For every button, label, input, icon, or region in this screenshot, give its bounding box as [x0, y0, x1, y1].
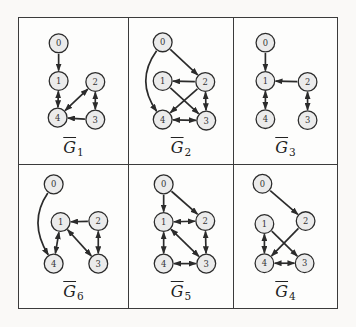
graph-label-g4: G4: [234, 284, 337, 302]
graph-cell-g3: 01243G3: [234, 18, 337, 165]
graph-drawing-g1: 01243: [19, 18, 128, 136]
node-number: 1: [161, 217, 166, 227]
node-number: 1: [262, 219, 267, 229]
graph-edge-1-3: [68, 230, 92, 256]
node-number: 4: [55, 113, 60, 123]
graph-edge-1-4: [55, 232, 59, 253]
node-number: 2: [93, 77, 98, 87]
screenshot-root: { "figure": { "type": "graph-grid", "des…: [0, 0, 356, 327]
node-number: 2: [203, 216, 208, 226]
graph-drawing-g3: 01243: [234, 18, 337, 136]
graph-edge-0-2: [170, 49, 197, 74]
graph-label-letter: G: [275, 282, 288, 301]
graph-edge-2-4: [272, 228, 299, 255]
node-number: 0: [263, 38, 268, 48]
graph-label-subscript: 6: [77, 290, 84, 302]
graph-edge-4-2: [65, 89, 88, 110]
graph-edge-0-4: [38, 193, 48, 255]
graph-edge-0-2: [270, 191, 298, 215]
node-number: 2: [96, 216, 101, 226]
graph-label-letter: G: [63, 138, 76, 157]
node-number: 0: [161, 179, 166, 189]
graph-label-subscript: 1: [77, 146, 84, 158]
graph-label-subscript: 5: [185, 290, 192, 302]
graph-cell-g2: 01243G2: [129, 18, 234, 165]
graph-edge-2-3: [206, 231, 207, 253]
node-number: 2: [303, 216, 308, 226]
node-number: 4: [161, 259, 166, 269]
graph-edge-3-4: [68, 118, 85, 119]
node-number: 1: [56, 76, 61, 86]
node-number: 1: [263, 76, 268, 86]
figure-frame: 01243G101243G201243G301243G601243G501243…: [18, 17, 338, 309]
graph-label-letter: G: [171, 138, 184, 157]
graph-label-subscript: 2: [185, 146, 192, 158]
node-number: 1: [160, 76, 165, 86]
node-number: 3: [302, 258, 307, 268]
node-number: 4: [263, 114, 268, 124]
graph-label-g5: G5: [129, 284, 233, 302]
node-number: 3: [204, 116, 209, 126]
graph-label-letter: G: [171, 282, 184, 301]
graph-edge-1-3: [171, 229, 199, 256]
node-number: 4: [160, 115, 165, 125]
graph-label-g1: G1: [19, 140, 128, 158]
graph-label-g2: G2: [129, 140, 233, 158]
graph-label-letter: G: [63, 282, 76, 301]
node-number: 3: [305, 115, 310, 125]
node-number: 2: [203, 77, 208, 87]
graph-edge-2-1: [173, 81, 195, 82]
node-number: 3: [204, 259, 209, 269]
node-number: 4: [262, 258, 267, 268]
node-number: 2: [305, 77, 310, 87]
node-number: 0: [160, 37, 165, 47]
node-number: 0: [260, 179, 265, 189]
graph-label-subscript: 4: [289, 290, 296, 302]
graph-label-g6: G6: [19, 284, 128, 302]
graph-label-g3: G3: [234, 140, 337, 158]
graph-label-letter: G: [275, 138, 288, 157]
graph-cell-g4: 01243G4: [234, 165, 337, 308]
graph-drawing-g2: 01243: [129, 18, 233, 136]
graph-cell-g6: 01243G6: [19, 165, 129, 308]
graph-edge-2-1: [276, 81, 298, 82]
node-number: 0: [51, 179, 56, 189]
graph-drawing-g5: 01243: [129, 165, 233, 283]
graph-drawing-g4: 01243: [234, 165, 337, 283]
node-number: 4: [51, 259, 56, 269]
graph-edge-0-2: [171, 191, 197, 214]
graph-edge-4-3: [173, 120, 196, 121]
node-number: 3: [93, 115, 98, 125]
node-number: 0: [56, 38, 61, 48]
node-number: 3: [96, 259, 101, 269]
node-number: 1: [58, 217, 63, 227]
graph-cell-g5: 01243G5: [129, 165, 234, 308]
graph-drawing-g6: 01243: [19, 165, 128, 283]
graph-label-subscript: 3: [289, 146, 296, 158]
graph-cell-g1: 01243G1: [19, 18, 129, 165]
